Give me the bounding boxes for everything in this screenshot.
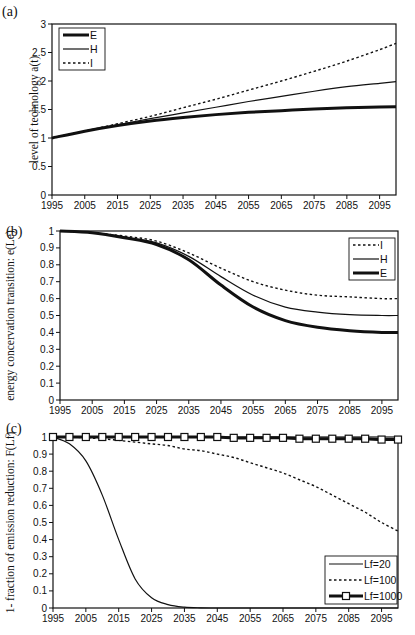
x-tick-label: 2015 [106, 200, 129, 211]
y-tick-label: 2 [40, 76, 46, 87]
y-tick-label: 0.2 [40, 361, 54, 372]
x-tick-label: 2025 [145, 405, 168, 416]
figure: (a)00.511.522.53199520052015202520352045… [0, 0, 415, 635]
square-marker [280, 434, 287, 441]
series-line-lf-100 [53, 437, 398, 531]
y-tick-label: 0.8 [33, 466, 47, 477]
x-tick-label: 1995 [41, 200, 64, 211]
square-marker [165, 434, 172, 441]
x-tick-label: 2035 [173, 613, 196, 624]
y-tick-label: 1 [40, 133, 46, 144]
legend-label: Lf=1000 [364, 590, 402, 602]
chart-panel-b: (b)00.10.20.30.40.50.60.70.80.9119952005… [4, 224, 398, 416]
square-marker [82, 434, 89, 441]
square-marker [197, 434, 204, 441]
x-tick-label: 2045 [206, 613, 229, 624]
x-tick-label: 2045 [210, 405, 233, 416]
legend: IHE [349, 238, 395, 280]
x-tick-label: 2065 [270, 200, 293, 211]
y-tick-label: 1 [48, 226, 54, 237]
y-tick-label: 0 [40, 190, 46, 201]
x-tick-label: 2035 [172, 200, 195, 211]
square-marker [214, 434, 221, 441]
square-marker [115, 434, 122, 441]
series-line-i [60, 231, 398, 299]
legend-label: Lf=100 [364, 574, 397, 586]
chart-panel-c: (c)00.10.20.30.40.50.60.70.80.9119952005… [4, 421, 402, 624]
square-marker [263, 434, 270, 441]
x-tick-label: 2005 [81, 405, 104, 416]
x-tick-label: 2005 [75, 613, 98, 624]
square-marker [50, 434, 57, 441]
square-marker [378, 436, 385, 443]
x-tick-label: 2085 [336, 200, 359, 211]
x-tick-label: 2055 [239, 613, 262, 624]
legend-square-marker [343, 593, 350, 600]
series-line-e [52, 107, 396, 138]
x-tick-label: 2005 [74, 200, 97, 211]
x-tick-label: 2035 [178, 405, 201, 416]
y-tick-label: 0.4 [33, 534, 47, 545]
square-marker [181, 434, 188, 441]
x-tick-label: 2095 [370, 613, 393, 624]
legend: EHI [59, 28, 105, 70]
series-line-h [60, 231, 398, 316]
y-axis-label: level of technology a(t) [28, 56, 41, 164]
legend-label: I [380, 239, 383, 251]
x-tick-label: 2055 [237, 200, 260, 211]
series-line-h [52, 82, 396, 138]
y-tick-label: 0.3 [40, 344, 54, 355]
y-tick-label: 0.8 [40, 259, 54, 270]
x-tick-label: 2025 [139, 200, 162, 211]
x-tick-label: 2085 [339, 405, 362, 416]
legend: Lf=20Lf=100Lf=1000 [325, 556, 402, 604]
y-axis-label: energy concervation transition: e(Le) [4, 230, 17, 401]
y-tick-label: 0 [41, 603, 47, 614]
x-tick-label: 2075 [305, 613, 328, 624]
x-tick-label: 2025 [140, 613, 163, 624]
y-tick-label: 0.3 [33, 551, 47, 562]
square-marker [329, 435, 336, 442]
x-tick-label: 1995 [42, 613, 65, 624]
legend-label: Lf=20 [364, 558, 391, 570]
y-tick-label: 1 [41, 432, 47, 443]
y-tick-label: 0.9 [40, 242, 54, 253]
x-tick-label: 2065 [274, 405, 297, 416]
x-tick-label: 2095 [368, 200, 391, 211]
x-tick-label: 2045 [205, 200, 228, 211]
square-marker [395, 436, 402, 443]
x-tick-label: 2015 [113, 405, 136, 416]
y-tick-label: 0.9 [33, 449, 47, 460]
y-tick-label: 0.6 [33, 500, 47, 511]
legend-label: H [90, 43, 98, 55]
y-tick-label: 0.5 [40, 310, 54, 321]
chart-panel-a: (a)00.511.522.53199520052015202520352045… [2, 4, 396, 211]
x-tick-label: 2015 [108, 613, 131, 624]
square-marker [247, 434, 254, 441]
y-tick-label: 0.5 [33, 517, 47, 528]
square-marker [345, 435, 352, 442]
y-tick-label: 0.4 [40, 327, 54, 338]
panel-label: (a) [2, 4, 18, 20]
square-marker [230, 434, 237, 441]
y-tick-label: 0.1 [40, 378, 54, 389]
y-axis-label: 1- fraction of emission reduction: F(Lf) [4, 431, 17, 613]
square-marker [296, 435, 303, 442]
x-tick-label: 2055 [242, 405, 265, 416]
square-marker [99, 434, 106, 441]
x-tick-label: 2075 [306, 405, 329, 416]
x-tick-label: 2075 [303, 200, 326, 211]
y-tick-label: 0.1 [33, 585, 47, 596]
plot-frame [60, 231, 398, 400]
x-tick-label: 2095 [371, 405, 394, 416]
square-marker [148, 434, 155, 441]
legend-label: E [380, 267, 387, 279]
legend-label: H [380, 253, 388, 265]
legend-label: I [90, 57, 93, 69]
legend-label: E [90, 29, 97, 41]
y-tick-label: 3 [40, 19, 46, 30]
x-tick-label: 1995 [49, 405, 72, 416]
square-marker [312, 435, 319, 442]
y-tick-label: 0 [48, 395, 54, 406]
y-tick-label: 0.7 [40, 276, 54, 287]
